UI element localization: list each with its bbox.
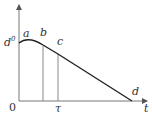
label-t: t bbox=[144, 102, 149, 115]
label-d0: d0 bbox=[4, 35, 16, 49]
label-a: a bbox=[23, 27, 30, 40]
label-d: d bbox=[132, 85, 139, 98]
diagram-canvas: d0 a b c d 0 τ t bbox=[0, 0, 152, 120]
label-c: c bbox=[57, 35, 63, 48]
curve bbox=[19, 40, 132, 101]
label-origin: 0 bbox=[9, 101, 16, 114]
label-tau: τ bbox=[55, 102, 62, 115]
label-b: b bbox=[40, 26, 47, 39]
